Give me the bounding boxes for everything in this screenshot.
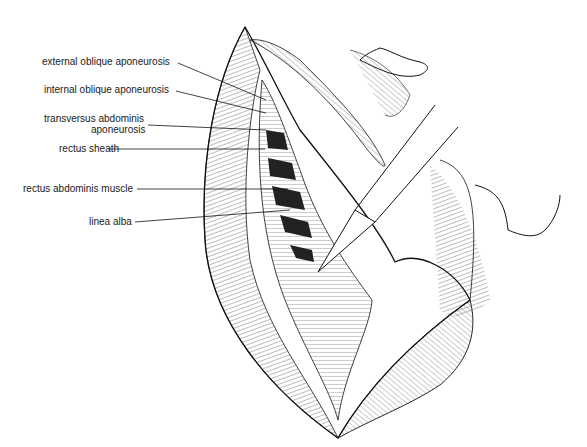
label-transversus-abdominis: transversus abdominis [44,113,144,124]
right-hand [475,185,560,236]
label-linea-alba: linea alba [89,216,132,227]
label-internal-oblique-aponeurosis: internal oblique aponeurosis [44,84,169,95]
label-rectus-sheath: rectus sheath [59,143,119,154]
label-transversus-aponeurosis: aponeurosis [91,124,145,135]
label-rectus-abdominis-muscle: rectus abdominis muscle [23,183,133,194]
label-external-oblique-aponeurosis: external oblique aponeurosis [42,56,170,67]
